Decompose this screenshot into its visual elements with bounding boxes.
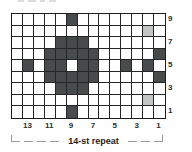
chart-cell: [154, 37, 165, 49]
repeat-label: 14-st repeat: [63, 136, 124, 147]
chart-cell: [143, 83, 154, 95]
chart-cell: [154, 106, 165, 118]
chart-cell: [56, 26, 67, 38]
chart-cell: [67, 60, 78, 72]
chart-cell: [56, 37, 67, 49]
chart-cell: [110, 49, 121, 61]
chart-cell: [89, 37, 100, 49]
chart-cell: [132, 72, 143, 84]
chart-cell: [89, 72, 100, 84]
chart-cell: [110, 60, 121, 72]
chart-cell: [154, 72, 165, 84]
chart-cell: [34, 106, 45, 118]
chart-cell: [12, 49, 23, 61]
chart-cell: [23, 14, 34, 26]
chart-cell: [56, 60, 67, 72]
chart-cell: [23, 60, 34, 72]
chart-cell: [67, 37, 78, 49]
chart-cell: [132, 49, 143, 61]
chart-cell: [56, 95, 67, 107]
chart-cell: [34, 83, 45, 95]
chart-cell: [12, 14, 23, 26]
chart-cell: [121, 72, 132, 84]
chart-cell: [154, 60, 165, 72]
chart-cell: [154, 26, 165, 38]
chart-cell: [45, 72, 56, 84]
chart-cell: [110, 72, 121, 84]
chart-cell: [132, 37, 143, 49]
row-number: 3: [168, 83, 180, 93]
chart-cell: [99, 26, 110, 38]
chart-cell: [12, 26, 23, 38]
chart-cell: [99, 72, 110, 84]
chart-cell: [132, 95, 143, 107]
chart-cell: [143, 37, 154, 49]
chart-cell: [143, 14, 154, 26]
chart-cell: [67, 72, 78, 84]
chart-cell: [56, 106, 67, 118]
row-number: 9: [168, 14, 180, 24]
chart-cell: [34, 72, 45, 84]
chart-cell: [132, 83, 143, 95]
chart-cell: [78, 72, 89, 84]
repeat-bracket-left-tick: [11, 135, 12, 141]
chart-cell: [132, 14, 143, 26]
chart-cell: [143, 95, 154, 107]
chart-cell: [99, 14, 110, 26]
chart-cell: [99, 37, 110, 49]
chart-cell: [23, 106, 34, 118]
chart-cell: [12, 37, 23, 49]
chart-cell: [56, 14, 67, 26]
chart-cell: [99, 95, 110, 107]
chart-cell: [56, 72, 67, 84]
chart-cell: [154, 14, 165, 26]
repeat-bracket-right-tick: [162, 135, 163, 141]
stitch-number: 9: [64, 121, 78, 131]
chart-cell: [23, 72, 34, 84]
chart-cell: [23, 95, 34, 107]
chart-cell: [78, 37, 89, 49]
chart-cell: [121, 60, 132, 72]
chart-cell: [67, 106, 78, 118]
chart-cell: [110, 14, 121, 26]
chart-cell: [143, 72, 154, 84]
chart-cell: [89, 49, 100, 61]
chart-cell: [143, 49, 154, 61]
chart-cell: [67, 26, 78, 38]
chart-cell: [143, 106, 154, 118]
stitch-number: 13: [20, 121, 34, 131]
chart-cell: [78, 49, 89, 61]
chart-cell: [12, 106, 23, 118]
row-number: 1: [168, 106, 180, 116]
knitting-chart: 97531 131197531 14-st repeat: [0, 0, 192, 152]
chart-cell: [154, 83, 165, 95]
chart-cell: [121, 49, 132, 61]
chart-cell: [143, 60, 154, 72]
chart-cell: [78, 14, 89, 26]
chart-cell: [89, 26, 100, 38]
chart-cell: [132, 26, 143, 38]
chart-cell: [110, 26, 121, 38]
row-number: 5: [168, 60, 180, 70]
chart-cell: [132, 60, 143, 72]
stitch-number: 5: [108, 121, 122, 131]
chart-cell: [143, 26, 154, 38]
chart-cell: [67, 95, 78, 107]
stitch-number: 3: [130, 121, 144, 131]
chart-grid: [11, 13, 166, 119]
chart-cell: [34, 95, 45, 107]
chart-cell: [99, 106, 110, 118]
chart-cell: [34, 26, 45, 38]
chart-cell: [78, 95, 89, 107]
chart-cell: [34, 14, 45, 26]
chart-cell: [23, 49, 34, 61]
chart-cell: [56, 49, 67, 61]
chart-cell: [110, 37, 121, 49]
chart-cell: [45, 49, 56, 61]
chart-cell: [121, 26, 132, 38]
chart-cell: [154, 49, 165, 61]
chart-cell: [12, 60, 23, 72]
chart-cell: [78, 83, 89, 95]
chart-cell: [45, 26, 56, 38]
chart-cell: [154, 95, 165, 107]
